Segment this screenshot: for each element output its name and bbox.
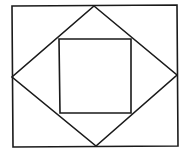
inscribed-diamond xyxy=(12,6,177,146)
inner-square xyxy=(59,39,131,113)
nested-shapes-diagram xyxy=(0,0,189,156)
outer-rectangle xyxy=(12,5,178,147)
